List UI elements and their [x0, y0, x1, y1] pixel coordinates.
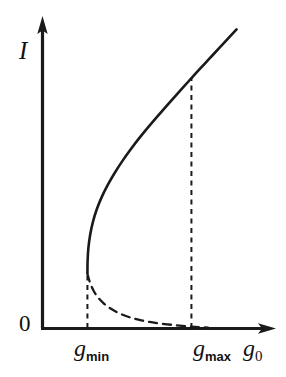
- axes-group: [37, 16, 276, 334]
- x-axis-label-subscript: 0: [255, 348, 263, 364]
- unstable-lower-branch-curve: [87, 274, 208, 328]
- tick-label-g-max: gmax: [193, 336, 231, 360]
- bistability-figure: I 0 gmin gmax g0: [0, 0, 286, 377]
- y-axis-label: I: [19, 38, 27, 63]
- x-axis-label-base: g: [243, 335, 255, 361]
- tick-base-g-max: g: [193, 335, 205, 361]
- tick-label-g-min: gmin: [74, 336, 109, 360]
- tick-subscript-g-min: min: [86, 349, 109, 364]
- plot-canvas: [0, 0, 286, 377]
- tick-subscript-g-max: max: [205, 349, 231, 364]
- stable-upper-branch-curve: [87, 29, 236, 273]
- tick-base-g-min: g: [74, 335, 86, 361]
- curves-group: [87, 29, 236, 327]
- origin-label: 0: [19, 312, 31, 335]
- guide-lines-group: [87, 78, 191, 328]
- x-axis-label: g0: [243, 336, 263, 360]
